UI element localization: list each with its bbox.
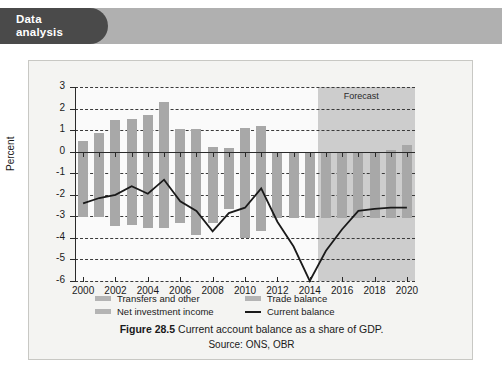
x-tick	[132, 152, 133, 157]
y-tick-label: 0	[43, 145, 65, 156]
y-tick	[70, 259, 76, 260]
legend-item-transfers-and-other: Transfers and other	[95, 293, 245, 304]
y-axis-title: Percent	[5, 137, 16, 171]
figure-caption: Figure 28.5 Current account balance as a…	[29, 323, 474, 335]
y-tick	[70, 281, 76, 282]
x-tick	[358, 152, 359, 157]
y-tick-label: 3	[43, 80, 65, 91]
legend-row-1: Transfers and other Trade balance	[95, 293, 415, 304]
x-tick	[326, 152, 327, 157]
y-tick	[70, 109, 76, 110]
y-tick-label: -5	[43, 252, 65, 263]
x-tick	[375, 152, 376, 157]
plot-wrapper: Forecast 3210-1-2-3-4-5-6 20002002200420…	[29, 61, 474, 361]
plot-area: Forecast	[75, 87, 415, 281]
legend-swatch-icon	[245, 296, 261, 301]
legend-swatch-icon	[95, 309, 111, 314]
x-axis-bottom-tick	[245, 277, 246, 282]
x-tick	[342, 152, 343, 157]
y-tick-label: -6	[43, 274, 65, 285]
tab-label-line1: Data	[16, 13, 108, 26]
figure-card: Forecast 3210-1-2-3-4-5-6 20002002200420…	[28, 60, 473, 360]
x-axis-bottom-tick	[180, 277, 181, 282]
legend-label: Transfers and other	[117, 293, 200, 304]
legend-label: Current balance	[267, 306, 335, 317]
x-tick	[277, 152, 278, 157]
y-tick	[70, 152, 76, 153]
x-axis-bottom-tick	[83, 277, 84, 282]
y-tick-label: 2	[43, 102, 65, 113]
x-tick	[180, 152, 181, 157]
x-tick	[294, 152, 295, 157]
x-tick	[115, 152, 116, 157]
y-tick-label: 1	[43, 123, 65, 134]
x-axis-bottom-tick	[310, 277, 311, 282]
legend-item-net-investment-income: Net investment income	[95, 306, 245, 317]
y-tick	[70, 238, 76, 239]
y-tick	[70, 87, 76, 88]
legend-label: Net investment income	[117, 306, 214, 317]
x-tick	[99, 152, 100, 157]
y-tick	[70, 130, 76, 131]
y-tick	[70, 216, 76, 217]
y-tick-label: -1	[43, 166, 65, 177]
chart-legend: Transfers and other Trade balance Net in…	[95, 293, 415, 319]
figure-title: Current account balance as a share of GD…	[178, 323, 383, 335]
figure-number: Figure 28.5	[120, 323, 175, 335]
y-tick-label: -3	[43, 209, 65, 220]
legend-item-trade-balance: Trade balance	[245, 293, 327, 304]
x-tick	[407, 152, 408, 157]
x-tick	[310, 152, 311, 157]
y-axis	[75, 87, 76, 281]
legend-row-2: Net investment income Current balance	[95, 306, 415, 317]
y-tick	[70, 195, 76, 196]
x-tick	[196, 152, 197, 157]
x-tick	[148, 152, 149, 157]
x-axis-bottom-tick	[407, 277, 408, 282]
x-axis-bottom-tick	[342, 277, 343, 282]
x-tick	[229, 152, 230, 157]
legend-line-icon	[245, 311, 261, 313]
x-tick	[245, 152, 246, 157]
x-axis-bottom-tick	[213, 277, 214, 282]
tab-label-line2: analysis	[16, 26, 108, 39]
y-tick-label: -2	[43, 188, 65, 199]
x-tick	[164, 152, 165, 157]
x-axis-bottom-tick	[148, 277, 149, 282]
y-tick	[70, 173, 76, 174]
x-tick	[213, 152, 214, 157]
x-axis-bottom-tick	[115, 277, 116, 282]
line-path	[83, 180, 407, 281]
x-axis-bottom-tick	[375, 277, 376, 282]
x-tick	[83, 152, 84, 157]
data-analysis-tab: Data analysis	[0, 8, 108, 44]
legend-item-current-balance: Current balance	[245, 306, 335, 317]
legend-label: Trade balance	[267, 293, 327, 304]
current-balance-line	[75, 87, 415, 281]
legend-swatch-icon	[95, 296, 111, 301]
y-tick-label: -4	[43, 231, 65, 242]
x-tick-label: 2000	[68, 285, 98, 296]
x-axis-bottom-tick	[277, 277, 278, 282]
figure-source: Source: ONS, OBR	[29, 339, 474, 350]
figure-page: Data analysis Forecast 3210-1-2-3-4-5-6 …	[0, 0, 502, 382]
x-tick	[261, 152, 262, 157]
x-tick	[391, 152, 392, 157]
